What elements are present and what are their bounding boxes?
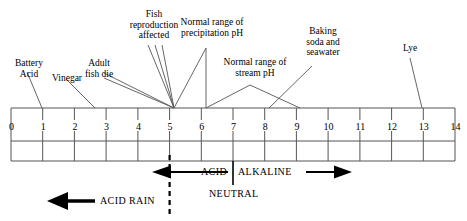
axis-tick-6: 6 — [194, 122, 210, 132]
axis-tick-5: 5 — [162, 122, 178, 132]
axis-tick-9: 9 — [289, 122, 305, 132]
axis-tick-1: 1 — [35, 122, 51, 132]
axis-tick-13: 13 — [416, 122, 432, 132]
axis-tick-4: 4 — [130, 122, 146, 132]
axis-tick-7: 7 — [226, 122, 242, 132]
callout-stream-ph: Normal range of stream pH — [205, 57, 305, 78]
acid-rain-arrow — [47, 192, 95, 210]
axis-tick-10: 10 — [321, 122, 337, 132]
axis-tick-0: 0 — [4, 122, 20, 132]
ph-scale-diagram: Battery Acid Vinegar Adult fish die Fish… — [0, 0, 467, 221]
alkaline-direction-arrow — [306, 166, 352, 179]
acid-band-label: ACID — [201, 166, 227, 177]
callout-precipitation-ph: Normal range of precipitation pH — [160, 17, 264, 38]
axis-tick-2: 2 — [67, 122, 83, 132]
leader-precip-left — [174, 48, 206, 108]
callout-lye: Lye — [390, 43, 430, 54]
alkaline-band-label: ALKALINE — [238, 166, 292, 177]
callout-baking-soda-seawater: Baking soda and seawater — [290, 26, 356, 58]
leader-lye — [410, 58, 422, 108]
leader-fish-repro-b — [155, 45, 174, 108]
leader-fish-repro-c — [162, 45, 174, 108]
axis-tick-8: 8 — [257, 122, 273, 132]
scale-ticks — [43, 108, 424, 161]
axis-tick-11: 11 — [352, 122, 368, 132]
neutral-label: NEUTRAL — [209, 188, 258, 199]
leader-stream-right — [250, 85, 300, 108]
axis-tick-3: 3 — [99, 122, 115, 132]
acid-rain-label: ACID RAIN — [100, 195, 155, 206]
callout-adult-fish-die: Adult fish die — [72, 58, 126, 79]
leader-stream-left — [206, 85, 250, 108]
axis-tick-12: 12 — [384, 122, 400, 132]
axis-tick-14: 14 — [448, 122, 464, 132]
